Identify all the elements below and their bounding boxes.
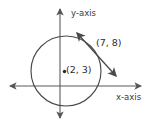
y-axis-label: y-axis (71, 8, 96, 18)
circle-center-label: (2, 3) (66, 64, 92, 75)
geometry-figure: y-axis x-axis (2, 3) (7, 8) (0, 0, 149, 132)
point-on-circle-label: (7, 8) (96, 37, 122, 48)
x-axis-label: x-axis (116, 92, 141, 102)
